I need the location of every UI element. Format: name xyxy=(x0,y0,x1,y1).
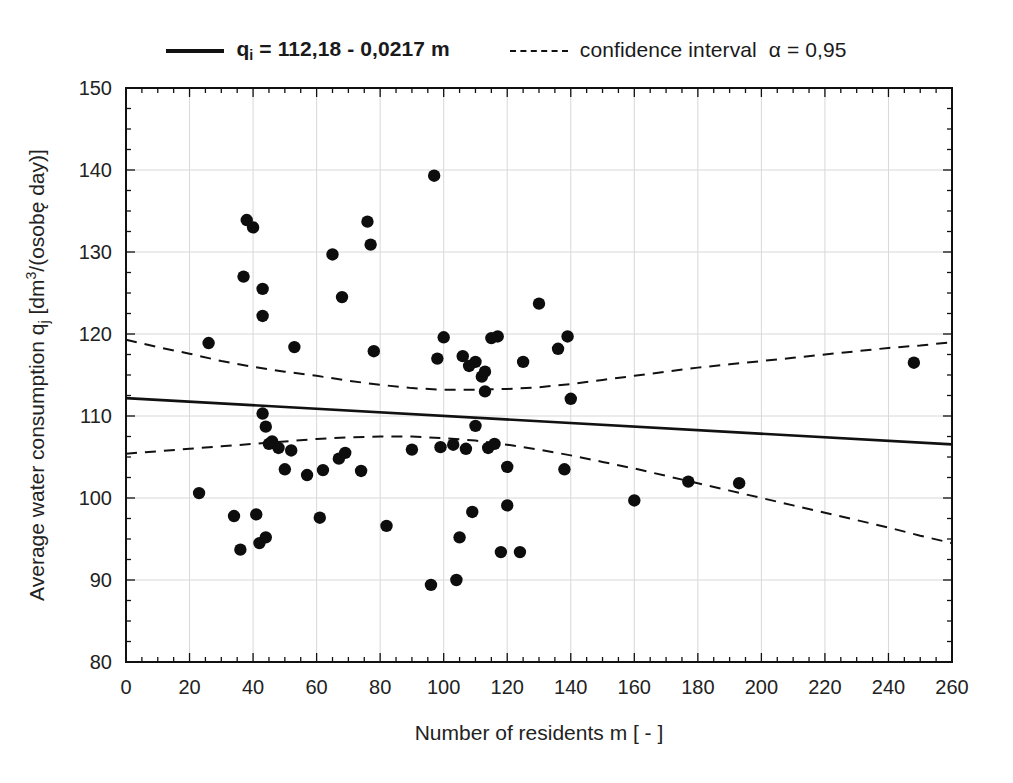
scatter-point xyxy=(558,463,570,475)
scatter-point xyxy=(256,283,268,295)
regression-trend-line xyxy=(126,398,952,444)
x-tick-label: 60 xyxy=(305,676,327,698)
axis-ticks xyxy=(126,88,952,662)
grid-lines xyxy=(126,88,952,662)
scatter-point xyxy=(488,438,500,450)
scatter-point xyxy=(202,337,214,349)
scatter-point xyxy=(256,310,268,322)
y-tick-label: 130 xyxy=(79,241,112,263)
data-points xyxy=(193,170,920,592)
scatter-point xyxy=(355,465,367,477)
chart-figure: qi = 112,18 - 0,0217 m confidence interv… xyxy=(0,0,1013,783)
x-tick-label: 140 xyxy=(554,676,587,698)
scatter-point xyxy=(237,270,249,282)
scatter-point xyxy=(908,357,920,369)
scatter-point xyxy=(479,366,491,378)
scatter-point xyxy=(314,511,326,523)
scatter-point xyxy=(339,447,351,459)
confidence-lower-band xyxy=(126,437,952,544)
scatter-point xyxy=(250,508,262,520)
regression-line xyxy=(126,398,952,444)
scatter-point xyxy=(628,494,640,506)
scatter-point xyxy=(733,477,745,489)
x-tick-label: 120 xyxy=(491,676,524,698)
scatter-point xyxy=(431,352,443,364)
scatter-point xyxy=(492,330,504,342)
plot-border xyxy=(126,88,952,662)
scatter-point xyxy=(260,531,272,543)
x-tick-label: 260 xyxy=(935,676,968,698)
scatter-point xyxy=(364,238,376,250)
scatter-point xyxy=(561,330,573,342)
y-axis-title: Average water consumption qj [dm3/(osobę… xyxy=(23,149,52,601)
scatter-point xyxy=(234,543,246,555)
scatter-point xyxy=(552,343,564,355)
confidence-interval-bands xyxy=(126,340,952,543)
y-tick-label: 110 xyxy=(80,405,112,427)
scatter-point xyxy=(228,510,240,522)
scatter-point xyxy=(301,469,313,481)
x-tick-label: 100 xyxy=(427,676,460,698)
scatter-point xyxy=(193,487,205,499)
scatter-point xyxy=(517,356,529,368)
scatter-point xyxy=(469,356,481,368)
x-tick-label: 240 xyxy=(872,676,905,698)
y-tick-label: 150 xyxy=(79,77,112,99)
y-tick-label: 90 xyxy=(90,569,112,591)
scatter-point xyxy=(469,420,481,432)
y-tick-label: 140 xyxy=(79,159,112,181)
y-tick-label: 100 xyxy=(79,487,112,509)
scatter-point xyxy=(279,463,291,475)
plot-frame xyxy=(126,88,952,662)
scatter-point xyxy=(501,461,513,473)
x-tick-label: 220 xyxy=(808,676,841,698)
scatter-point xyxy=(272,442,284,454)
scatter-point xyxy=(495,546,507,558)
scatter-point xyxy=(288,341,300,353)
scatter-point xyxy=(565,393,577,405)
x-tick-label: 20 xyxy=(178,676,200,698)
scatter-point xyxy=(368,345,380,357)
scatter-point xyxy=(256,407,268,419)
scatter-point xyxy=(453,531,465,543)
scatter-point xyxy=(317,464,329,476)
y-tick-label: 80 xyxy=(90,651,112,673)
scatter-point xyxy=(460,443,472,455)
scatter-point xyxy=(479,385,491,397)
scatter-point xyxy=(428,170,440,182)
scatter-point xyxy=(437,331,449,343)
scatter-point xyxy=(285,444,297,456)
x-tick-label: 180 xyxy=(681,676,714,698)
confidence-upper-band xyxy=(126,340,952,390)
scatter-point xyxy=(425,579,437,591)
scatter-point xyxy=(501,499,513,511)
scatter-point xyxy=(361,215,373,227)
scatter-point xyxy=(406,443,418,455)
axis-titles: Number of residents m [ - ]Average water… xyxy=(23,149,663,744)
scatter-point xyxy=(260,420,272,432)
scatter-point xyxy=(326,248,338,260)
x-tick-label: 40 xyxy=(242,676,264,698)
scatter-point xyxy=(336,291,348,303)
scatter-plot: 0204060801001201401601802002202402608090… xyxy=(0,0,1013,783)
scatter-point xyxy=(434,441,446,453)
x-axis-title: Number of residents m [ - ] xyxy=(415,721,664,744)
scatter-point xyxy=(682,475,694,487)
scatter-point xyxy=(514,546,526,558)
scatter-point xyxy=(450,574,462,586)
scatter-point xyxy=(533,297,545,309)
x-tick-label: 0 xyxy=(120,676,131,698)
scatter-point xyxy=(447,439,459,451)
x-tick-label: 200 xyxy=(745,676,778,698)
x-tick-label: 80 xyxy=(369,676,391,698)
scatter-point xyxy=(247,221,259,233)
x-tick-label: 160 xyxy=(618,676,651,698)
scatter-point xyxy=(380,520,392,532)
scatter-point xyxy=(466,506,478,518)
y-tick-label: 120 xyxy=(79,323,112,345)
